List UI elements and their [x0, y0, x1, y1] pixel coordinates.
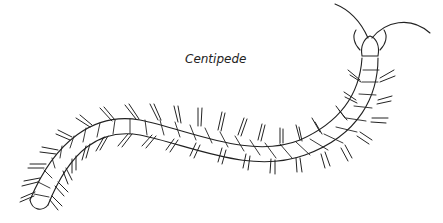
centipede-drawing	[0, 0, 443, 223]
illustration-title: Centipede	[185, 52, 246, 66]
centipede-illustration: Centipede	[0, 0, 443, 223]
